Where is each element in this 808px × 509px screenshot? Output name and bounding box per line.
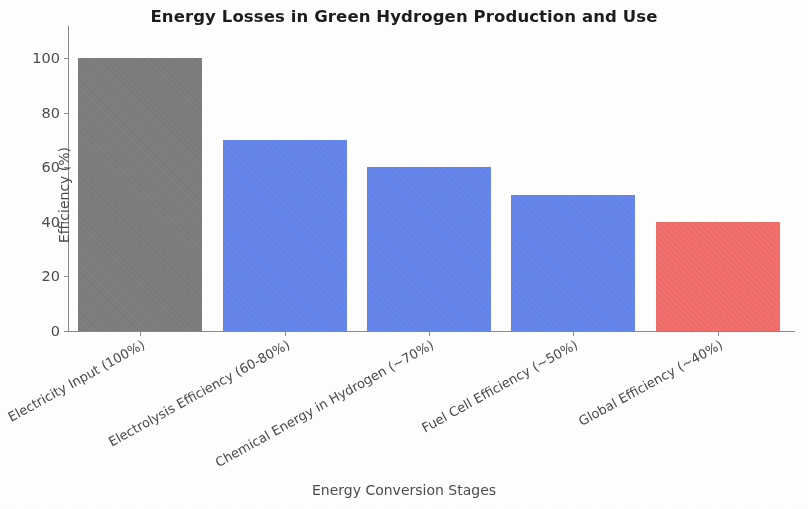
bar [511,195,635,332]
y-tick-mark [64,276,68,277]
bar [78,58,202,331]
y-tick-label: 60 [42,159,60,175]
bar [223,140,347,331]
bar-texture [656,222,780,331]
x-tick-mark [573,332,574,336]
chart-figure: Energy Losses in Green Hydrogen Producti… [0,0,808,509]
bar-texture [223,140,347,331]
x-axis-line [68,331,795,332]
plot-area: Efficiency (%) 020406080100 [68,58,790,331]
x-tick-mark [429,332,430,336]
y-tick-label: 100 [32,50,60,66]
chart-title: Energy Losses in Green Hydrogen Producti… [0,7,808,26]
x-tick-mark [140,332,141,336]
x-tick-mark [718,332,719,336]
x-tick-mark [285,332,286,336]
y-tick-mark [64,331,68,332]
y-tick-label: 40 [42,214,60,230]
y-tick-mark [64,113,68,114]
y-tick-mark [64,167,68,168]
bar-texture [511,195,635,332]
y-tick-label: 20 [42,268,60,284]
y-tick-label: 0 [51,323,60,339]
bar [656,222,780,331]
y-tick-mark [64,222,68,223]
bar-texture [367,167,491,331]
y-tick-mark [64,58,68,59]
y-tick-label: 80 [42,105,60,121]
bar-texture [78,58,202,331]
x-axis-title: Energy Conversion Stages [0,482,808,498]
bar [367,167,491,331]
